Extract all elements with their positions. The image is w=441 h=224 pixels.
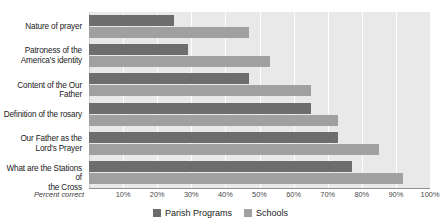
category-label: What are the Stations ofthe Cross	[0, 164, 82, 193]
bar-group	[89, 73, 430, 102]
category-label-line: Nature of prayer	[0, 22, 82, 32]
x-axis-tick-label: 10%	[108, 190, 138, 199]
percent-correct-label: Percent correct	[34, 190, 84, 199]
category-label-line: Content of the Our Father	[0, 81, 82, 100]
chart-legend: Parish ProgramsSchools	[0, 206, 441, 220]
x-axis-tick-label: 60%	[279, 190, 309, 199]
bar	[89, 27, 249, 38]
category-label: Content of the Our Father	[0, 81, 82, 100]
bar	[89, 132, 338, 143]
x-axis-tick-label: 40%	[210, 190, 240, 199]
bar-chart: Nature of prayerPatroness of theAmerica'…	[0, 0, 441, 224]
bar	[89, 44, 188, 55]
bar	[89, 103, 311, 114]
category-label-line: Our Father as the	[0, 134, 82, 144]
x-axis-tick-label: 80%	[347, 190, 377, 199]
category-label: Nature of prayer	[0, 22, 82, 32]
legend-item[interactable]: Schools	[244, 208, 288, 218]
category-label: Our Father as theLord's Prayer	[0, 134, 82, 153]
x-axis-tick-label: 30%	[176, 190, 206, 199]
square-swatch-icon	[244, 209, 252, 217]
bar	[89, 173, 403, 184]
x-axis-tick-label: 70%	[313, 190, 343, 199]
legend-label: Schools	[256, 208, 288, 218]
category-label: Patroness of theAmerica's identity	[0, 46, 82, 65]
category-label-line: America's identity	[0, 56, 82, 66]
category-axis-labels: Nature of prayerPatroness of theAmerica'…	[0, 12, 86, 188]
category-label-line: Lord's Prayer	[0, 144, 82, 154]
bar-group	[89, 161, 430, 190]
bar-group	[89, 132, 430, 161]
bar-group	[89, 103, 430, 132]
bar-group	[89, 44, 430, 73]
x-axis-tick-label: 100%	[415, 190, 441, 199]
bar	[89, 144, 379, 155]
bar	[89, 161, 352, 172]
gridline-100	[430, 12, 431, 188]
x-axis-line	[89, 188, 430, 189]
bar	[89, 15, 174, 26]
legend-label: Parish Programs	[165, 208, 232, 218]
bar	[89, 56, 270, 67]
chart-title-cropped	[120, 0, 350, 4]
bar-group	[89, 15, 430, 44]
legend-item[interactable]: Parish Programs	[153, 208, 232, 218]
plot-area	[89, 12, 430, 188]
category-label-line: Definition of the rosary	[0, 110, 82, 120]
square-swatch-icon	[153, 209, 161, 217]
category-label-line: What are the Stations of	[0, 164, 82, 183]
bar	[89, 115, 338, 126]
x-axis-tick-label: 20%	[142, 190, 172, 199]
x-axis-tick-label: 50%	[245, 190, 275, 199]
x-axis-tick-label: 90%	[381, 190, 411, 199]
bar	[89, 85, 311, 96]
category-label-line: Patroness of the	[0, 46, 82, 56]
bar	[89, 73, 249, 84]
category-label: Definition of the rosary	[0, 110, 82, 120]
